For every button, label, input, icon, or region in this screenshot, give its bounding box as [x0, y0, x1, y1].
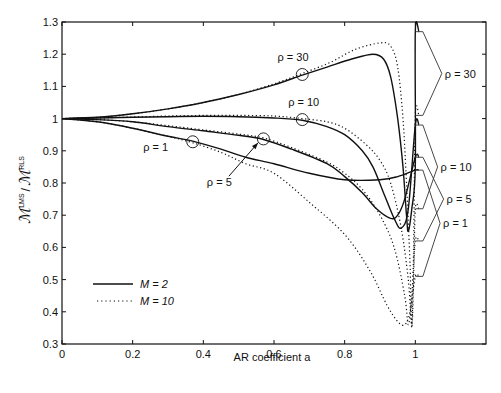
- y-tick-label: 0.4: [43, 306, 58, 318]
- y-tick-label: 0.8: [43, 177, 58, 189]
- curve-label: ρ = 10: [288, 96, 319, 108]
- y-axis: 0.30.40.50.60.70.80.911.11.21.3: [43, 16, 486, 350]
- legend-label-m10: M = 10: [140, 295, 175, 307]
- bracket: [415, 125, 437, 209]
- series-line-rho-10-m-10: [62, 115, 419, 324]
- series-line-rho-5-m-10: [62, 119, 419, 325]
- bracket-label: ρ = 1: [443, 217, 468, 229]
- series-line-rho-5-m-2: [62, 119, 419, 219]
- curve-label: ρ = 5: [207, 176, 232, 188]
- plot-border: [62, 22, 486, 344]
- bracket: [415, 32, 442, 116]
- y-tick-label: 0.5: [43, 274, 58, 286]
- bracket-label: ρ = 5: [447, 193, 472, 205]
- series-line-rho-1-m-10: [62, 119, 419, 326]
- series-layer: [62, 22, 419, 328]
- y-tick-label: 1: [52, 113, 58, 125]
- svg-text:ℳLMS/ℳRLS: ℳLMS/ℳRLS: [16, 156, 34, 224]
- series-line-rho-30-m-10: [62, 43, 419, 328]
- x-tick-label: 0: [59, 348, 65, 360]
- y-tick-label: 0.9: [43, 145, 58, 157]
- bracket-label: ρ = 10: [441, 161, 472, 173]
- curve-label: ρ = 1: [143, 141, 168, 153]
- legend: M = 2 M = 10: [93, 278, 175, 307]
- x-tick-label: 0.2: [125, 348, 140, 360]
- chart: 00.20.40.60.81 0.30.40.50.60.70.80.911.1…: [0, 0, 501, 393]
- series-line-rho-10-m-2: [62, 116, 419, 228]
- x-tick-label: 0.8: [337, 348, 352, 360]
- x-tick-label: 1: [412, 348, 418, 360]
- x-axis: 00.20.40.60.81: [59, 22, 418, 360]
- ylabel-sep: /: [18, 187, 33, 191]
- y-tick-label: 1.1: [43, 80, 58, 92]
- x-axis-label: AR coefficient a: [234, 351, 312, 363]
- y-tick-label: 0.7: [43, 209, 58, 221]
- y-tick-label: 0.3: [43, 338, 58, 350]
- x-tick-label: 0.4: [196, 348, 211, 360]
- legend-label-m2: M = 2: [140, 278, 168, 290]
- ylabel-sup1: LMS: [18, 193, 25, 208]
- y-tick-label: 1.2: [43, 48, 58, 60]
- bracket-layer: ρ = 30ρ = 10ρ = 5ρ = 1: [415, 32, 476, 277]
- y-tick-label: 1.3: [43, 16, 58, 28]
- curve-label: ρ = 30: [278, 51, 309, 63]
- plot-frame: [62, 22, 486, 344]
- series-line-rho-1-m-2: [62, 119, 419, 181]
- ylabel-sup2: RLS: [18, 156, 25, 170]
- series-line-rho-30-m-2: [62, 22, 419, 232]
- y-tick-label: 0.6: [43, 241, 58, 253]
- y-axis-label: ℳLMS/ℳRLS: [16, 156, 34, 224]
- bracket-label: ρ = 30: [445, 68, 476, 80]
- bracket: [415, 170, 440, 276]
